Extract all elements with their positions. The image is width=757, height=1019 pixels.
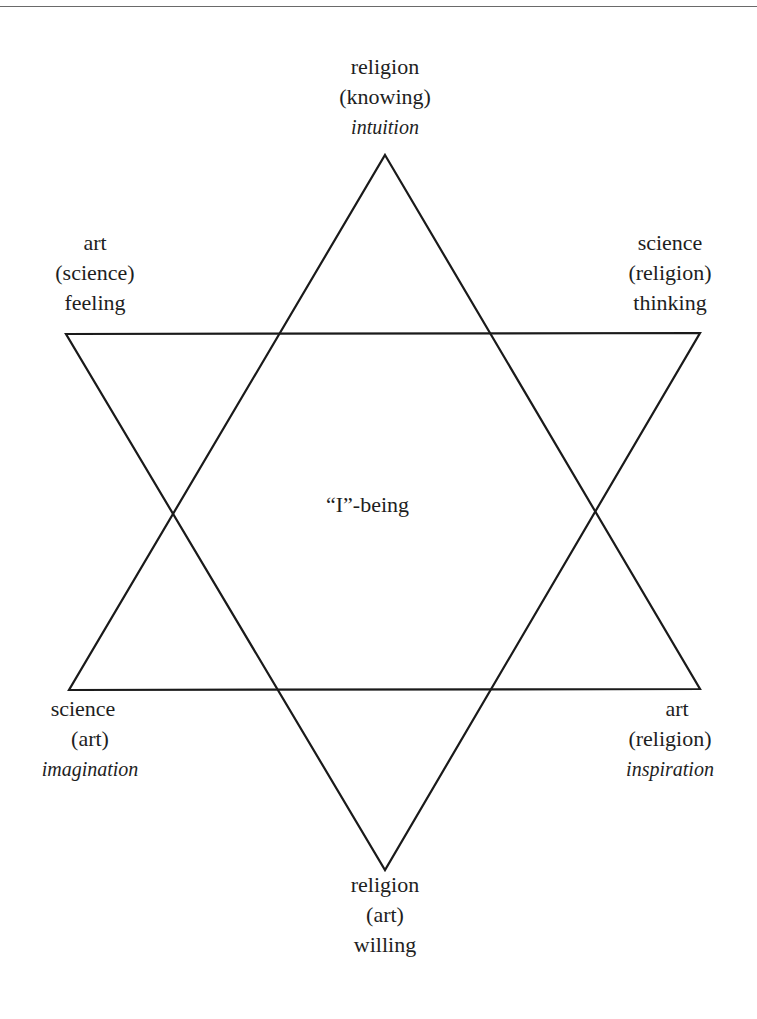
downward-triangle — [66, 333, 700, 870]
lower-left-quality: imagination — [20, 754, 160, 784]
lower-left-secondary: (art) — [20, 724, 160, 754]
vertex-label-top: religion (knowing) intuition — [315, 52, 455, 142]
lower-right-secondary: (religion) — [600, 724, 740, 754]
center-label: “I”-being — [326, 490, 409, 520]
top-secondary: (knowing) — [315, 82, 455, 112]
bottom-secondary: (art) — [315, 900, 455, 930]
lower-right-primary: art — [614, 694, 740, 724]
upward-triangle — [69, 155, 700, 690]
upper-left-secondary: (science) — [40, 258, 150, 288]
upper-right-quality: thinking — [610, 288, 730, 318]
top-quality: intuition — [315, 112, 455, 142]
bottom-quality: willing — [315, 930, 455, 960]
vertex-label-lower-right: art (religion) inspiration — [600, 694, 740, 784]
top-primary: religion — [315, 52, 455, 82]
vertex-label-upper-right: science (religion) thinking — [610, 228, 730, 318]
lower-right-quality: inspiration — [600, 754, 740, 784]
bottom-primary: religion — [315, 870, 455, 900]
lower-left-primary: science — [6, 694, 160, 724]
upper-left-quality: feeling — [40, 288, 150, 318]
vertex-label-lower-left: science (art) imagination — [20, 694, 160, 784]
vertex-label-upper-left: art (science) feeling — [40, 228, 150, 318]
vertex-label-bottom: religion (art) willing — [315, 870, 455, 960]
upper-left-primary: art — [40, 228, 150, 258]
upper-right-secondary: (religion) — [610, 258, 730, 288]
upper-right-primary: science — [610, 228, 730, 258]
